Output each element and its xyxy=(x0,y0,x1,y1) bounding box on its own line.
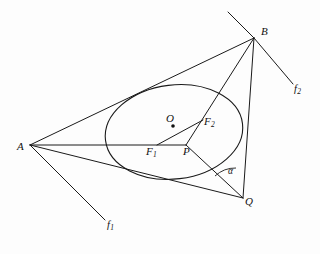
point-label-P: P xyxy=(183,146,190,157)
point-label-O: O xyxy=(166,113,174,124)
geometry-figure: A B O F1 F2 P Q α f1 f2 xyxy=(0,0,320,254)
figure-canvas xyxy=(0,0,320,254)
segment-F1-F2 xyxy=(157,120,203,145)
ray-f1-extension xyxy=(30,145,105,220)
inscribed-ellipse xyxy=(100,77,248,187)
ray-B-upper-left-extension xyxy=(228,12,254,38)
ray-f2-extension xyxy=(254,38,293,84)
ray-label-f2: f2 xyxy=(294,84,301,95)
point-label-A: A xyxy=(17,141,24,152)
segment-P-Q xyxy=(186,145,243,198)
point-dot-O xyxy=(171,124,175,128)
point-label-F2: F2 xyxy=(204,116,214,127)
ray-label-f1: f1 xyxy=(107,220,114,231)
point-label-Q: Q xyxy=(245,196,253,207)
point-label-B: B xyxy=(261,26,268,37)
segment-B-Q xyxy=(243,38,254,198)
angle-label-alpha: α xyxy=(228,167,233,177)
segment-A-Q xyxy=(30,145,243,198)
point-label-F1: F1 xyxy=(146,146,156,157)
